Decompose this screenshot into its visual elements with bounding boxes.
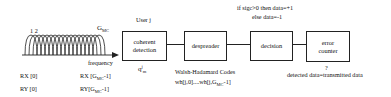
subcarrier-label-left: 1 2 [30,27,38,34]
frequency-label: frequency [88,59,113,66]
error-counter-block: errorcounter [306,31,350,62]
comparison-label: detected data=transmitted data [287,71,363,78]
axis-arrow-icon [112,52,119,58]
error-label-line2: counter [318,47,337,55]
coherent-detection-block: coherentdetection [122,31,167,61]
walsh-hadamard-label: Walsh-Hadamard Codes [175,68,235,75]
ry-first-label: RY [0] [20,85,37,92]
rx-first-label: RX [0] [20,72,37,79]
connector-1 [166,44,184,45]
connector-2 [226,44,250,45]
user-label: User j [136,16,151,23]
ry-last-label: RY[GMC-1] [80,85,109,92]
qjm-label: qjm [138,66,146,73]
error-label-line1: error [318,39,337,47]
subcarrier-label-right: GMC [97,25,109,32]
connector-3 [292,44,306,45]
coherent-label-line1: coherent [133,38,156,46]
despreader-block: despreader [184,31,227,61]
despreader-label: despreader [192,42,220,50]
decision-rule-line1: if sigc>0 then data=+1 [237,4,293,11]
rx-last-label: RX [GMC-1] [80,72,111,79]
coherent-label-line2: detection [133,46,156,54]
question-mark: ? [325,64,328,71]
walsh-code-range: wh[j,0]....wh[j,GMC-1] [175,78,231,85]
decision-label: decision [261,42,282,50]
decision-block: decision [250,31,293,61]
decision-rule-line2: else data=-1 [252,13,282,20]
